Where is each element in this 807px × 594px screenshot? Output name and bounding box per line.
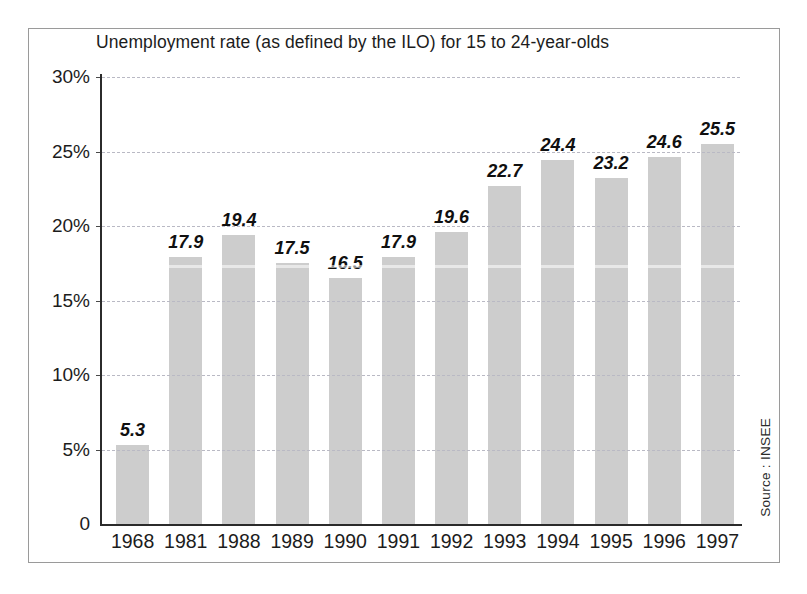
y-tick-label-5: 5% [63, 439, 90, 461]
bar-value-1988: 19.4 [221, 210, 256, 231]
bar-1995 [595, 178, 628, 524]
x-axis-line [100, 524, 742, 526]
y-axis-line [100, 74, 102, 526]
chart-title: Unemployment rate (as defined by the ILO… [96, 32, 609, 53]
bar-value-1968: 5.3 [120, 420, 145, 441]
bar-1996 [648, 157, 681, 524]
bar-value-1989: 17.5 [275, 238, 310, 259]
y-tick-label-0: 0 [79, 513, 90, 535]
x-tick-label-1989: 1989 [270, 530, 313, 553]
bar-value-1994: 24.4 [540, 135, 575, 156]
source-note: Source : INSEE [758, 418, 773, 517]
bar-value-1997: 25.5 [700, 119, 735, 140]
y-axis-labels: 05%10%15%20%25%30% [0, 0, 90, 594]
bar-1993 [488, 186, 521, 524]
bar-1981 [169, 257, 202, 524]
y-tick-label-20: 20% [52, 215, 90, 237]
chart-page: Unemployment rate (as defined by the ILO… [0, 0, 807, 594]
bar-value-1991: 17.9 [381, 232, 416, 253]
bar-value-1993: 22.7 [487, 161, 522, 182]
y-tick-label-25: 25% [52, 141, 90, 163]
bar-value-1981: 17.9 [168, 232, 203, 253]
bar-1992 [435, 232, 468, 524]
bar-value-1996: 24.6 [647, 132, 682, 153]
x-tick-label-1988: 1988 [217, 530, 260, 553]
y-tick-label-30: 30% [52, 66, 90, 88]
x-tick-label-1993: 1993 [483, 530, 526, 553]
bar-1988 [222, 235, 255, 524]
bar-value-1995: 23.2 [594, 153, 629, 174]
x-tick-label-1990: 1990 [324, 530, 367, 553]
x-tick-label-1992: 1992 [430, 530, 473, 553]
x-tick-label-1997: 1997 [696, 530, 739, 553]
y-tick-label-10: 10% [52, 364, 90, 386]
bar-value-1990: 16.5 [328, 253, 363, 274]
y-tick-label-15: 15% [52, 290, 90, 312]
x-tick-label-1968: 1968 [111, 530, 154, 553]
bar-1997 [701, 144, 734, 524]
bar-1990 [329, 278, 362, 524]
bar-value-1992: 19.6 [434, 207, 469, 228]
x-tick-label-1981: 1981 [164, 530, 207, 553]
x-tick-label-1994: 1994 [536, 530, 579, 553]
bar-1991 [382, 257, 415, 524]
bar-1994 [541, 160, 574, 524]
x-tick-label-1991: 1991 [377, 530, 420, 553]
bar-1968 [116, 445, 149, 524]
x-tick-label-1995: 1995 [589, 530, 632, 553]
bar-1989 [276, 263, 309, 524]
x-tick-label-1996: 1996 [643, 530, 686, 553]
